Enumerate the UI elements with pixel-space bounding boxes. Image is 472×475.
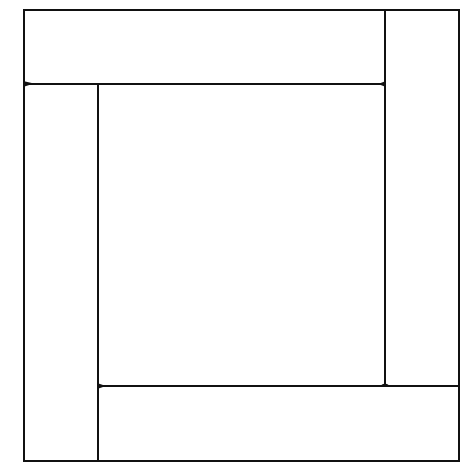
pinwheel-diagram <box>0 0 472 475</box>
center-square <box>98 84 385 386</box>
bottom-bar-rectangle <box>98 386 459 461</box>
right-bar-rectangle <box>385 10 459 386</box>
top-bar-rectangle <box>24 10 385 84</box>
left-bar-rectangle <box>24 84 98 461</box>
